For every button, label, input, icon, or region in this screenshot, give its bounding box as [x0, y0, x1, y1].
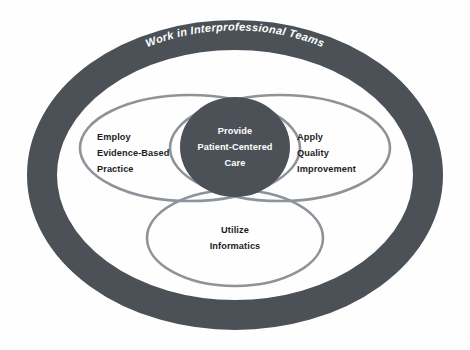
label-line: Apply: [297, 132, 324, 142]
label-line: Care: [225, 158, 246, 168]
label-line: Informatics: [210, 241, 261, 251]
venn-diagram-canvas: Work in Interprofessional Teams Employ E…: [0, 0, 470, 350]
label-line: Practice: [97, 164, 134, 174]
label-line: Improvement: [297, 164, 356, 174]
label-line: Patient-Centered: [197, 142, 272, 152]
label-line: Quality: [297, 148, 330, 158]
label-line: Employ: [97, 132, 132, 142]
label-line: Provide: [218, 126, 252, 136]
label-line: Evidence-Based: [97, 148, 169, 158]
competency-diagram: Work in Interprofessional Teams Employ E…: [0, 0, 470, 350]
label-line: Utilize: [221, 225, 249, 235]
